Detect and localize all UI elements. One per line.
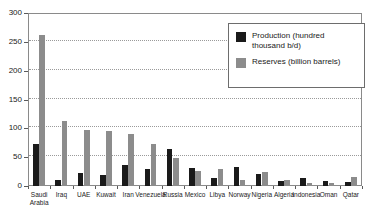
- bar-reserves: [351, 177, 357, 186]
- bar-group: [28, 13, 50, 186]
- legend-item-reserves: Reserves (billion barrels): [236, 57, 358, 68]
- y-tick-label: 200: [9, 67, 22, 75]
- x-axis-tick-marks: [28, 186, 362, 190]
- bar-reserves: [195, 171, 201, 186]
- bar-reserves: [128, 134, 134, 186]
- y-tick-label: 0: [18, 182, 22, 190]
- bar-production: [122, 165, 128, 186]
- x-tick-mark: [362, 186, 363, 189]
- legend-label-production: Production (hundred thousand b/d): [252, 31, 358, 51]
- bar-production: [234, 167, 240, 186]
- y-axis: 050100150200250300: [0, 0, 26, 190]
- bar-production: [211, 178, 217, 186]
- x-tick-mark: [50, 186, 51, 189]
- bar-group: [206, 13, 228, 186]
- bar-production: [256, 174, 262, 186]
- bar-group: [73, 13, 95, 186]
- x-tick-mark: [206, 186, 207, 189]
- x-tick-mark: [162, 186, 163, 189]
- legend-item-production: Production (hundred thousand b/d): [236, 31, 358, 51]
- bar-group: [50, 13, 72, 186]
- bar-production: [167, 149, 173, 186]
- bar-group: [162, 13, 184, 186]
- bar-group: [139, 13, 161, 186]
- x-tick-mark: [95, 186, 96, 189]
- bar-production: [78, 173, 84, 186]
- bar-group: [95, 13, 117, 186]
- bar-production: [300, 178, 306, 186]
- x-tick-mark: [117, 186, 118, 189]
- x-tick-mark: [340, 186, 341, 189]
- bar-group: [184, 13, 206, 186]
- bar-reserves: [84, 130, 90, 187]
- legend-swatch-reserves-icon: [236, 58, 246, 68]
- x-tick-mark: [317, 186, 318, 189]
- bar-production: [145, 169, 151, 186]
- bar-reserves: [262, 172, 268, 186]
- x-tick-mark: [295, 186, 296, 189]
- x-tick-mark: [273, 186, 274, 189]
- chart-legend: Production (hundred thousand b/d) Reserv…: [228, 23, 365, 88]
- legend-swatch-production-icon: [236, 32, 246, 42]
- bar-reserves: [62, 121, 68, 186]
- bar-production: [189, 168, 195, 186]
- x-tick-mark: [228, 186, 229, 189]
- y-tick-label: 100: [9, 124, 22, 132]
- y-tick-label: 150: [9, 96, 22, 104]
- y-tick-label: 300: [9, 9, 22, 17]
- x-tick-mark: [28, 186, 29, 189]
- oil-production-reserves-bar-chart: 050100150200250300 Saudi ArabiaIraqUAEKu…: [0, 0, 373, 218]
- bar-reserves: [173, 158, 179, 186]
- bar-group: [117, 13, 139, 186]
- x-axis: Saudi ArabiaIraqUAEKuwaitIranVenezuelaRu…: [28, 191, 362, 217]
- y-tick-label: 250: [9, 38, 22, 46]
- x-tick-mark: [184, 186, 185, 189]
- x-tick-mark: [73, 186, 74, 189]
- bar-reserves: [39, 35, 45, 186]
- bar-production: [33, 144, 39, 186]
- x-tick-mark: [251, 186, 252, 189]
- bar-reserves: [218, 169, 224, 186]
- bar-production: [100, 175, 106, 186]
- x-tick-label: Qatar: [336, 191, 366, 199]
- y-tick-label: 50: [13, 153, 22, 161]
- bar-reserves: [151, 144, 157, 186]
- bar-reserves: [106, 131, 112, 186]
- x-tick-mark: [139, 186, 140, 189]
- legend-label-reserves: Reserves (billion barrels): [252, 57, 340, 67]
